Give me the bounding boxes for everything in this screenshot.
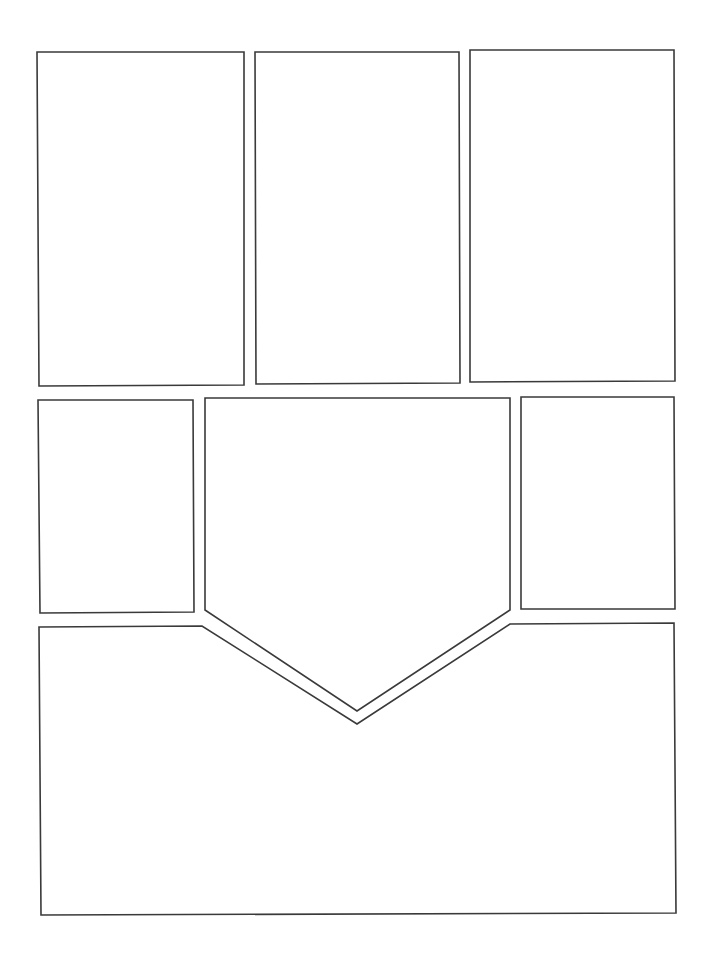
comic-page (0, 0, 710, 955)
panel-6 (521, 397, 675, 609)
panel-4 (38, 400, 194, 613)
panel-2 (255, 52, 460, 384)
panel-1 (37, 52, 244, 386)
panel-3 (470, 50, 675, 382)
